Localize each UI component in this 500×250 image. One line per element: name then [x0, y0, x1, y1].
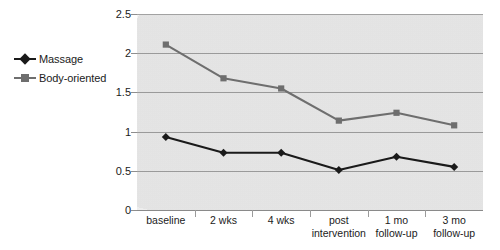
x-axis-separator — [252, 210, 253, 217]
x-axis-separator — [368, 210, 369, 217]
legend-label-massage: Massage — [39, 53, 83, 65]
diamond-marker-icon — [14, 53, 36, 65]
chart-screenshot: Massage Body-oriented 00.511.522.5 basel… — [0, 0, 500, 250]
x-tick-label-1-mo-follow-up: 1 mofollow-up — [375, 214, 417, 239]
x-tick-label-baseline: baseline — [146, 214, 185, 227]
plot-area — [137, 14, 483, 210]
y-tick-label-0: 0 — [91, 204, 131, 216]
gridline-2.5 — [137, 14, 483, 15]
y-tick-mark-1.5 — [131, 92, 137, 93]
y-tick-label-2: 2 — [91, 47, 131, 59]
x-axis-separator — [195, 210, 196, 217]
y-tick-label-1.5: 1.5 — [91, 86, 131, 98]
y-tick-mark-1 — [131, 132, 137, 133]
y-tick-mark-2 — [131, 53, 137, 54]
y-tick-label-1: 1 — [91, 126, 131, 138]
y-tick-mark-0 — [131, 210, 137, 211]
gridline-1 — [137, 132, 483, 133]
legend-item-body-oriented[interactable]: Body-oriented — [14, 68, 126, 87]
x-tick-label-3-mo-follow-up: 3 mofollow-up — [433, 214, 475, 239]
gridline-2 — [137, 53, 483, 54]
y-tick-mark-0.5 — [131, 171, 137, 172]
gridline-0.5 — [137, 171, 483, 172]
paper-texture — [137, 14, 483, 210]
x-tick-label-post-intervention: postintervention — [312, 214, 366, 239]
gridline-1.5 — [137, 92, 483, 93]
y-tick-mark-2.5 — [131, 14, 137, 15]
x-axis-separator — [310, 210, 311, 217]
x-axis-separator — [425, 210, 426, 217]
x-tick-label-4-wks: 4 wks — [268, 214, 295, 227]
y-tick-label-0.5: 0.5 — [91, 165, 131, 177]
y-tick-label-2.5: 2.5 — [91, 8, 131, 20]
square-marker-icon — [14, 72, 36, 84]
legend-label-body-oriented: Body-oriented — [39, 72, 106, 84]
x-tick-label-2-wks: 2 wks — [210, 214, 237, 227]
